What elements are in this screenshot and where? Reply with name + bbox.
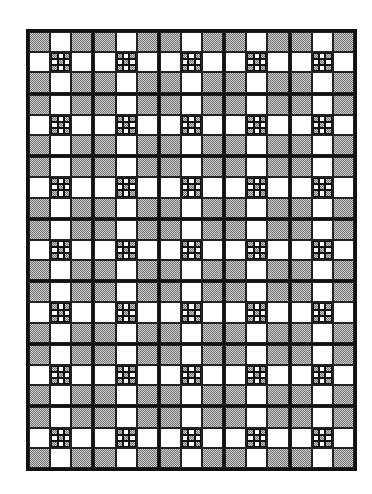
white-square xyxy=(50,135,71,155)
white-square xyxy=(202,365,223,385)
quilt-block xyxy=(290,31,355,94)
shaded-square xyxy=(71,282,92,302)
shaded-square xyxy=(267,385,288,405)
white-square xyxy=(333,115,354,135)
quilt-block xyxy=(93,344,158,407)
shaded-square xyxy=(267,220,288,240)
shaded-square xyxy=(71,323,92,343)
ninepatch-cell xyxy=(246,177,267,197)
mini-shaded-square xyxy=(260,316,266,322)
white-square xyxy=(181,260,202,280)
ninepatch-cell xyxy=(50,52,71,72)
mini-shaded-square xyxy=(260,378,266,384)
white-square xyxy=(333,52,354,72)
quilt-block xyxy=(224,94,289,157)
shaded-square xyxy=(225,345,246,365)
mini-shaded-square xyxy=(129,441,135,447)
white-square xyxy=(94,52,115,72)
shaded-square xyxy=(333,448,354,468)
white-square xyxy=(181,72,202,92)
white-square xyxy=(181,385,202,405)
white-square xyxy=(71,115,92,135)
shaded-square xyxy=(29,323,50,343)
mini-shaded-square xyxy=(260,441,266,447)
mini-shaded-square xyxy=(325,378,331,384)
ninepatch-cell xyxy=(181,240,202,260)
shaded-square xyxy=(267,448,288,468)
white-square xyxy=(160,177,181,197)
ninepatch-cell xyxy=(246,52,267,72)
shaded-square xyxy=(225,282,246,302)
shaded-square xyxy=(291,345,312,365)
mini-shaded-square xyxy=(129,128,135,134)
mini-shaded-square xyxy=(195,378,201,384)
mini-shaded-square xyxy=(260,128,266,134)
white-square xyxy=(181,345,202,365)
white-square xyxy=(225,365,246,385)
white-square xyxy=(312,198,333,218)
quilt-block xyxy=(290,344,355,407)
white-square xyxy=(116,198,137,218)
shaded-square xyxy=(29,220,50,240)
shaded-square xyxy=(225,385,246,405)
white-square xyxy=(225,302,246,322)
quilt-block xyxy=(93,156,158,219)
white-square xyxy=(181,32,202,52)
quilt-block xyxy=(28,281,93,344)
shaded-square xyxy=(29,282,50,302)
quilt-block xyxy=(159,219,224,282)
white-square xyxy=(160,365,181,385)
shaded-square xyxy=(333,282,354,302)
shaded-square xyxy=(291,260,312,280)
shaded-square xyxy=(333,323,354,343)
mini-shaded-square xyxy=(129,253,135,259)
quilt-block xyxy=(28,344,93,407)
white-square xyxy=(291,240,312,260)
shaded-square xyxy=(137,407,158,427)
white-square xyxy=(312,135,333,155)
shaded-square xyxy=(160,95,181,115)
shaded-square xyxy=(29,198,50,218)
ninepatch-cell xyxy=(50,240,71,260)
white-square xyxy=(181,198,202,218)
white-square xyxy=(181,95,202,115)
shaded-square xyxy=(225,32,246,52)
white-square xyxy=(50,323,71,343)
shaded-square xyxy=(333,198,354,218)
shaded-square xyxy=(160,198,181,218)
shaded-square xyxy=(160,135,181,155)
shaded-square xyxy=(202,323,223,343)
white-square xyxy=(29,240,50,260)
shaded-square xyxy=(202,345,223,365)
shaded-square xyxy=(94,157,115,177)
mini-shaded-square xyxy=(129,316,135,322)
shaded-square xyxy=(333,135,354,155)
white-square xyxy=(246,95,267,115)
quilt-block xyxy=(224,156,289,219)
white-square xyxy=(312,220,333,240)
shaded-square xyxy=(225,407,246,427)
ninepatch-cell xyxy=(312,52,333,72)
mini-shaded-square xyxy=(64,65,70,71)
white-square xyxy=(137,52,158,72)
quilt-block xyxy=(28,156,93,219)
white-square xyxy=(50,282,71,302)
white-square xyxy=(291,302,312,322)
quilt-block xyxy=(224,219,289,282)
white-square xyxy=(246,157,267,177)
shaded-square xyxy=(137,157,158,177)
white-square xyxy=(137,240,158,260)
white-square xyxy=(160,302,181,322)
quilt-block xyxy=(28,406,93,469)
white-square xyxy=(225,428,246,448)
quilt-block xyxy=(290,156,355,219)
white-square xyxy=(312,407,333,427)
white-square xyxy=(137,115,158,135)
ninepatch-cell xyxy=(246,302,267,322)
white-square xyxy=(181,448,202,468)
ninepatch-cell xyxy=(50,428,71,448)
white-square xyxy=(116,282,137,302)
ninepatch-cell xyxy=(312,428,333,448)
ninepatch-cell xyxy=(181,302,202,322)
shaded-square xyxy=(160,407,181,427)
